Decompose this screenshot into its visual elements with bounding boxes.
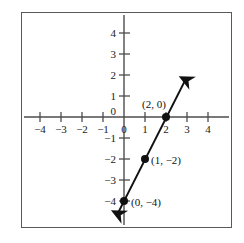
y-tick-label-origin: 0 (100, 106, 116, 117)
x-tick-label-4: 4 (198, 124, 218, 135)
point-label-2-0: (2, 0) (142, 99, 166, 110)
data-point-2-0 (162, 113, 170, 121)
x-tick-label-3: 3 (177, 124, 197, 135)
y-tick-label-minus4: −4 (96, 196, 116, 207)
y-tick-label-4: 4 (100, 28, 116, 39)
y-tick-label-minus3: −3 (96, 175, 116, 186)
x-tick-label-origin: 0 (114, 124, 134, 135)
point-label-1-minus2: (1, −2) (151, 155, 181, 166)
data-point-0-minus4 (120, 197, 128, 205)
x-tick-label-2: 2 (156, 124, 176, 135)
point-label-0-minus4: (0, −4) (131, 197, 161, 208)
x-tick-label-minus3: −3 (51, 124, 71, 135)
x-tick-label-minus2: −2 (72, 124, 92, 135)
data-point-1-minus2 (141, 155, 149, 163)
y-tick-label-2: 2 (100, 70, 116, 81)
x-tick-label-minus4: −4 (30, 124, 50, 135)
x-tick-label-1: 1 (135, 124, 155, 135)
y-tick-label-1: 1 (100, 91, 116, 102)
graph-canvas (0, 0, 244, 243)
coordinate-plane-figure: −4 −3 −2 −1 0 1 2 3 4 4 3 2 1 0 −1 −2 −3… (0, 0, 244, 243)
y-tick-label-minus2: −2 (96, 154, 116, 165)
y-tick-label-minus1: −1 (96, 133, 116, 144)
y-tick-label-3: 3 (100, 49, 116, 60)
